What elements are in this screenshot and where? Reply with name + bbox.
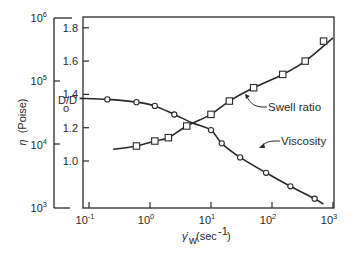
data-point-square [280,71,286,77]
data-point-circle [312,196,317,201]
data-point-square [152,138,158,144]
data-point-square [250,85,256,91]
svg-text:): ) [227,230,231,242]
data-point-square [133,143,139,149]
x-tick-label: 103 [321,212,337,226]
data-point-square [208,111,214,117]
x-tick-label: 100 [138,212,154,226]
svg-text:Viscosity: Viscosity [281,135,326,147]
x-tick-label: 10-1 [76,212,95,226]
eta-tick-label: 104 [31,137,47,151]
x-axis: 10-1100101102103 [76,202,338,226]
series-layer [80,38,333,204]
eta-tick-label: 106 [31,10,47,24]
swell-tick-label: 1.6 [63,55,78,67]
eta-axis-label: η (Poise) [16,98,28,145]
x-axis-label: γ̇ w (sec -1 ) [182,225,231,246]
swell-ratio-series [113,38,333,150]
chart: 106105104103 η (Poise) 1.81.61.41.21.0 D… [0,0,356,254]
data-point-square [226,98,232,104]
data-point-circle [219,141,224,146]
x-tick-label: 102 [260,212,276,226]
data-point-square [320,38,326,44]
data-point-square [184,123,190,129]
svg-text:γ̇: γ̇ [182,230,189,242]
data-point-circle [134,100,139,105]
annotation-swell-ratio: Swell ratio [245,94,321,113]
annotation-viscosity: Viscosity [259,135,326,148]
data-point-square [165,134,171,140]
eta-tick-label: 105 [31,73,47,87]
swell-tick-label: 1.8 [63,22,78,34]
data-point-circle [208,128,213,133]
data-point-circle [288,184,293,189]
data-point-circle [238,155,243,160]
data-point-circle [105,97,110,102]
eta-tick-label: 103 [31,200,47,214]
data-point-circle [172,112,177,117]
data-point-circle [263,170,268,175]
swell-tick-label: 1.2 [63,122,78,134]
swell-tick-label: 1.0 [63,155,78,167]
data-point-circle [152,103,157,108]
svg-text:(sec: (sec [196,230,217,242]
svg-text:Swell ratio: Swell ratio [268,101,321,113]
x-tick-label: 101 [199,212,215,226]
swell-axis-label-sub: o [63,102,69,114]
data-point-square [302,58,308,64]
